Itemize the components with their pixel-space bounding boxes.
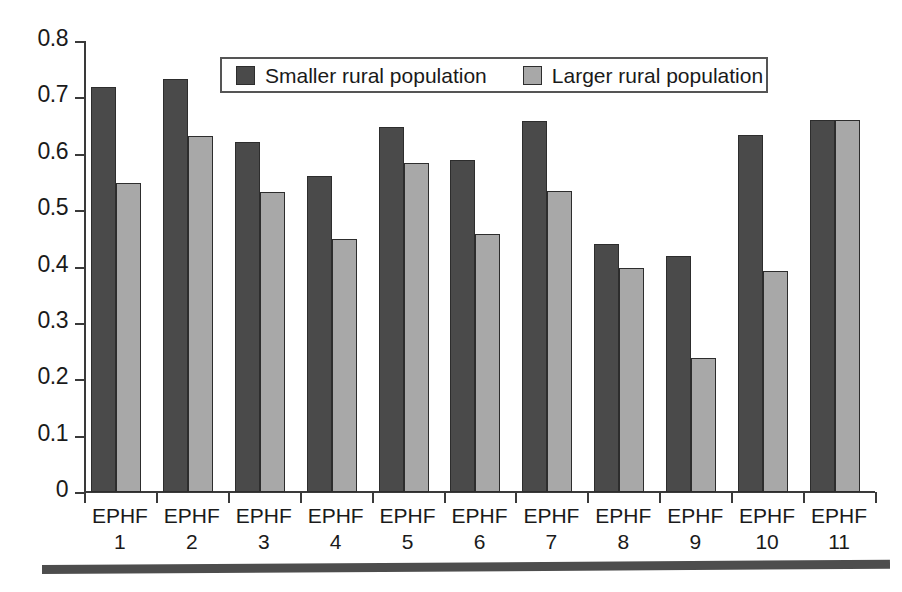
x-axis-tick-mark (659, 492, 661, 503)
x-axis-label-number: 10 (731, 529, 803, 555)
y-axis-tick-mark (75, 492, 84, 494)
dark-gray-swatch-icon (236, 66, 255, 85)
x-axis-label: EPHF1 (84, 503, 156, 555)
bar-group (444, 41, 516, 492)
y-axis-tick-mark (75, 436, 84, 438)
x-axis-label: EPHF4 (300, 503, 372, 555)
bar-larger-rural-population (763, 271, 788, 492)
bar-smaller-rural-population (666, 256, 691, 492)
x-axis-tick-mark (587, 492, 589, 503)
x-axis-label-name: EPHF (667, 504, 723, 527)
bar-smaller-rural-population (594, 244, 619, 492)
x-axis-label: EPHF6 (444, 503, 516, 555)
x-axis-label-number: 2 (156, 529, 228, 555)
x-axis-label-name: EPHF (308, 504, 364, 527)
y-axis-tick-label: 0.8 (38, 27, 68, 50)
light-gray-swatch-icon (523, 66, 542, 85)
x-axis-tick-mark (803, 492, 805, 503)
bar-smaller-rural-population (163, 79, 188, 492)
x-axis-label-number: 7 (515, 529, 587, 555)
y-axis-tick-mark (75, 41, 84, 43)
x-axis-label-number: 4 (300, 529, 372, 555)
bar-chart-figure: 00.10.20.30.40.50.60.70.8 EPHF1EPHF2EPHF… (0, 0, 902, 592)
y-axis-tick-label: 0.1 (38, 422, 68, 445)
x-axis-tick-mark (444, 492, 446, 503)
x-axis-label: EPHF3 (228, 503, 300, 555)
x-axis-label-number: 8 (587, 529, 659, 555)
bar-smaller-rural-population (738, 135, 763, 492)
bar-smaller-rural-population (522, 121, 547, 493)
bar-smaller-rural-population (235, 142, 260, 492)
bar-smaller-rural-population (91, 87, 116, 492)
y-axis-tick-label: 0.6 (38, 140, 68, 163)
y-axis-tick-mark (75, 267, 84, 269)
y-axis-tick-label: 0.7 (38, 83, 68, 106)
x-axis-label-name: EPHF (523, 504, 579, 527)
bar-larger-rural-population (116, 183, 141, 492)
y-axis-tick-label: 0.3 (38, 309, 68, 332)
y-axis-tick-mark (75, 97, 84, 99)
x-axis-label-name: EPHF (380, 504, 436, 527)
y-axis-tick-mark (75, 154, 84, 156)
bar-larger-rural-population (547, 191, 572, 492)
legend-label-larger: Larger rural population (552, 65, 763, 86)
bar-larger-rural-population (332, 239, 357, 492)
legend-label-smaller: Smaller rural population (265, 65, 487, 86)
bar-group (659, 41, 731, 492)
x-axis-tick-mark (515, 492, 517, 503)
x-axis-tick-mark (300, 492, 302, 503)
x-axis-label-number: 3 (228, 529, 300, 555)
legend-item-larger-rural-population: Larger rural population (523, 59, 763, 91)
x-axis-label: EPHF2 (156, 503, 228, 555)
bar-group (587, 41, 659, 492)
y-axis-tick-label: 0.4 (38, 253, 68, 276)
bar-larger-rural-population (691, 358, 716, 492)
bar-larger-rural-population (835, 120, 860, 492)
x-axis-label: EPHF7 (515, 503, 587, 555)
x-axis-label-name: EPHF (164, 504, 220, 527)
bars-container (84, 41, 875, 492)
bar-smaller-rural-population (379, 127, 404, 492)
bar-larger-rural-population (404, 163, 429, 492)
x-axis-label: EPHF5 (372, 503, 444, 555)
x-axis-labels: EPHF1EPHF2EPHF3EPHF4EPHF5EPHF6EPHF7EPHF8… (84, 503, 875, 563)
x-axis-label-name: EPHF (739, 504, 795, 527)
x-axis-label-number: 9 (659, 529, 731, 555)
x-axis-tick-mark (731, 492, 733, 503)
bar-larger-rural-population (475, 234, 500, 492)
x-axis-label: EPHF8 (587, 503, 659, 555)
bar-group (731, 41, 803, 492)
bar-group (300, 41, 372, 492)
bar-group (156, 41, 228, 492)
x-axis-label-name: EPHF (595, 504, 651, 527)
x-axis-label-number: 1 (84, 529, 156, 555)
x-axis-label-number: 5 (372, 529, 444, 555)
bar-group (372, 41, 444, 492)
x-axis-tick-mark (156, 492, 158, 503)
bar-larger-rural-population (260, 192, 285, 492)
bar-smaller-rural-population (450, 160, 475, 492)
bar-group (515, 41, 587, 492)
y-axis-tick-mark (75, 323, 84, 325)
y-axis-tick-mark (75, 210, 84, 212)
x-axis-tick-mark (875, 492, 877, 503)
x-axis-tick-mark (228, 492, 230, 503)
x-axis-label: EPHF11 (803, 503, 875, 555)
bar-group (228, 41, 300, 492)
x-axis-tick-mark (84, 492, 86, 503)
x-axis-label: EPHF9 (659, 503, 731, 555)
x-axis-label-name: EPHF (811, 504, 867, 527)
y-axis-tick-label: 0.2 (38, 365, 68, 388)
x-axis-label-name: EPHF (236, 504, 292, 527)
chart-legend: Smaller rural population Larger rural po… (220, 57, 768, 93)
y-axis-tick-label: 0 (56, 478, 68, 501)
bar-smaller-rural-population (810, 120, 835, 492)
y-axis-tick-mark (75, 379, 84, 381)
x-axis-label-name: EPHF (451, 504, 507, 527)
bar-larger-rural-population (619, 268, 644, 492)
legend-item-smaller-rural-population: Smaller rural population (236, 59, 487, 91)
x-axis-label-name: EPHF (92, 504, 148, 527)
bar-larger-rural-population (188, 136, 213, 492)
x-axis-tick-mark (372, 492, 374, 503)
y-axis-tick-label: 0.5 (38, 196, 68, 219)
